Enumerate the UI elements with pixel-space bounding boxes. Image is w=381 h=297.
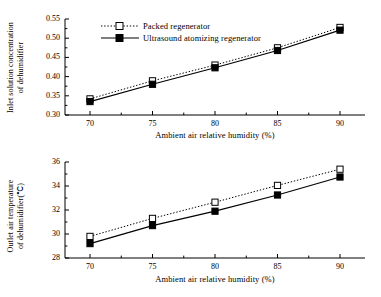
y-axis-ticklabel-top: 0.30 [22,110,60,119]
plot-area-bottom [64,161,366,259]
x-axis-ticklabel-top: 75 [141,119,165,128]
y-axis-ticklabel-top: 0.35 [22,91,60,100]
x-axis-ticklabel-bottom: 90 [328,262,352,271]
legend-label-ultrasound-atomizing-regenerator: Ultrasound atomizing regenerator [140,33,261,43]
chart-panel-outlet-air-temperature: Outlet air temperature of dehumidifier(℃… [0,149,381,297]
y-axis-title-bottom-line1: Outlet air temperature [6,161,16,271]
y-axis-ticklabel-top: 0.40 [22,72,60,81]
x-axis-title-top: Ambient air relative humidity (%) [64,130,366,140]
legend-key-ultrasound-atomizing-regenerator [100,32,140,44]
chart-panel-inlet-solution-concentration: Inlet solution concentration of dehumidi… [0,0,381,148]
y-axis-title-top-line2: of dehumidifier [16,10,26,125]
y-axis-ticklabel-bottom: 30 [22,229,60,238]
x-axis-ticklabel-bottom: 85 [266,262,290,271]
y-axis-title-top-line1: Inlet solution concentration [6,10,16,125]
legend-entry-ultrasound-atomizing-regenerator: Ultrasound atomizing regenerator [100,32,261,44]
y-axis-title-top: Inlet solution concentration of dehumidi… [6,10,25,125]
y-axis-ticklabel-bottom: 34 [22,181,60,190]
figure-container: Inlet solution concentration of dehumidi… [0,0,381,297]
x-axis-ticklabel-top: 80 [203,119,227,128]
legend-entry-packed-regenerator: Packed regenerator [100,20,261,32]
x-axis-ticklabel-bottom: 70 [78,262,102,271]
y-axis-ticklabel-bottom: 36 [22,157,60,166]
legend-key-packed-regenerator [100,20,140,32]
y-axis-ticklabel-top: 0.55 [22,14,60,23]
x-axis-ticklabel-top: 85 [266,119,290,128]
x-axis-ticklabel-bottom: 75 [141,262,165,271]
legend-label-packed-regenerator: Packed regenerator [140,21,210,31]
plot-svg-bottom [64,161,366,259]
y-axis-ticklabel-bottom: 32 [22,205,60,214]
x-axis-ticklabel-top: 70 [78,119,102,128]
x-axis-ticklabel-top: 90 [328,119,352,128]
y-axis-ticklabel-bottom: 28 [22,253,60,262]
y-axis-ticklabel-top: 0.50 [22,33,60,42]
legend-top: Packed regenerator Ultrasound atomizing … [100,20,261,44]
x-axis-title-bottom: Ambient air relative humidity (%) [64,274,366,284]
x-axis-ticklabel-bottom: 80 [203,262,227,271]
y-axis-ticklabel-top: 0.45 [22,52,60,61]
